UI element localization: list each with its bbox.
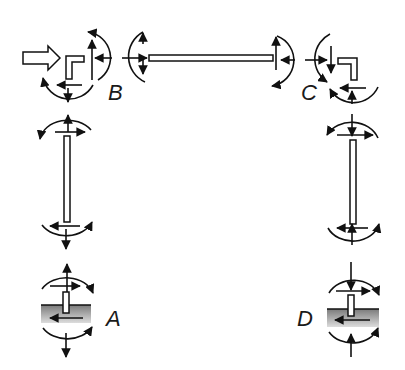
- label-d: D: [297, 306, 313, 331]
- beam-bc: [122, 32, 295, 86]
- column-dc: [327, 114, 379, 245]
- support-a: [41, 264, 93, 357]
- portal-frame-diagram: B C: [0, 0, 405, 370]
- support-d: [327, 262, 379, 357]
- joint-b: [43, 32, 112, 102]
- column-ab: [40, 115, 92, 249]
- label-a: A: [104, 306, 121, 331]
- label-c: C: [301, 80, 317, 105]
- label-b: B: [108, 80, 123, 105]
- applied-load-arrow-icon: [23, 46, 60, 70]
